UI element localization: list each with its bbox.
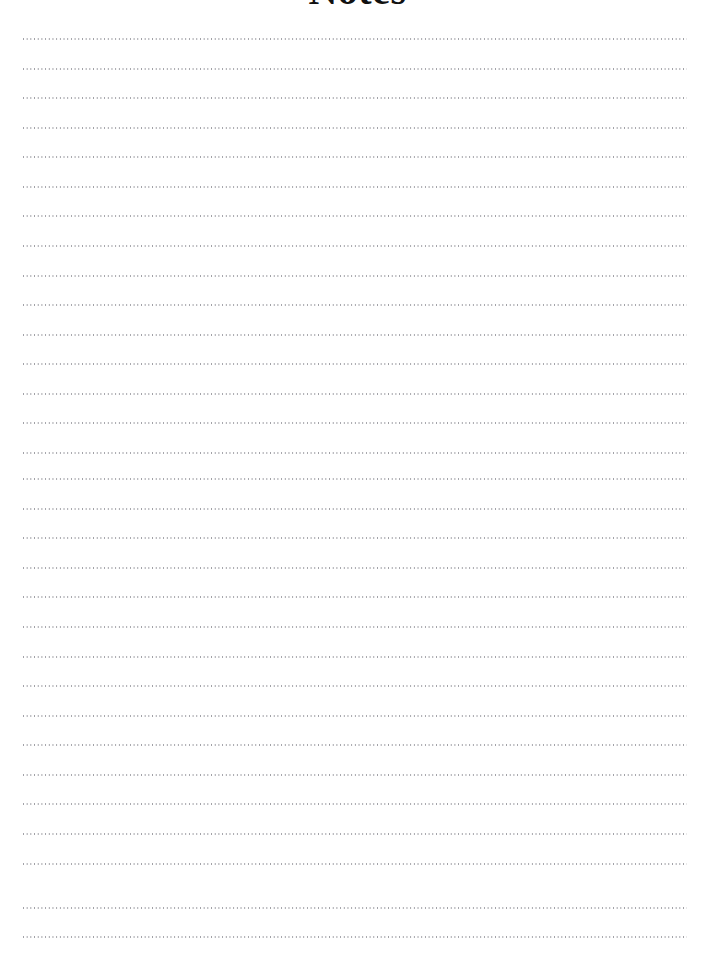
ruled-line (23, 715, 687, 717)
ruled-line (23, 907, 687, 909)
ruled-line (23, 334, 687, 336)
ruled-line (23, 656, 687, 658)
ruled-line (23, 803, 687, 805)
ruled-line (23, 567, 687, 569)
ruled-line (23, 127, 687, 129)
ruled-line (23, 833, 687, 835)
ruled-line (23, 215, 687, 217)
ruled-line (23, 186, 687, 188)
ruled-line (23, 863, 687, 865)
ruled-line (23, 508, 687, 510)
ruled-line (23, 537, 687, 539)
ruled-line (23, 275, 687, 277)
ruled-line (23, 744, 687, 746)
ruled-line (23, 452, 687, 454)
ruled-line (23, 156, 687, 158)
ruled-line (23, 304, 687, 306)
ruled-lines-area (0, 0, 715, 955)
notes-page: Notes (0, 0, 715, 955)
ruled-line (23, 774, 687, 776)
ruled-line (23, 936, 687, 938)
ruled-line (23, 38, 687, 40)
ruled-line (23, 596, 687, 598)
ruled-line (23, 245, 687, 247)
ruled-line (23, 363, 687, 365)
ruled-line (23, 393, 687, 395)
ruled-line (23, 97, 687, 99)
ruled-line (23, 626, 687, 628)
ruled-line (23, 478, 687, 480)
ruled-line (23, 68, 687, 70)
ruled-line (23, 685, 687, 687)
ruled-line (23, 422, 687, 424)
